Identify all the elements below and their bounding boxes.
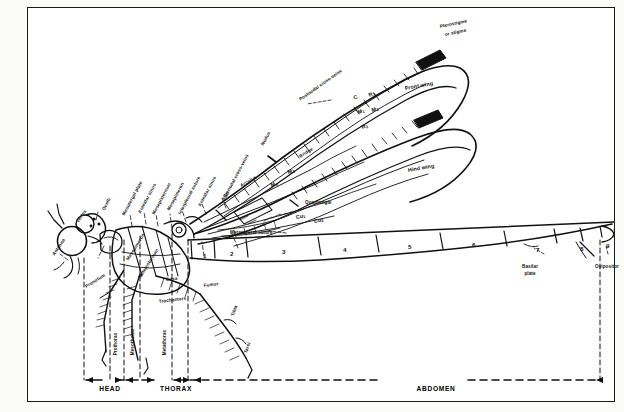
abdomen-segment-7: 7	[536, 247, 540, 253]
prothorax-label: Prothorax	[114, 333, 119, 356]
abdomen-segment-2: 2	[230, 251, 234, 257]
metathorax-label: Metathorax	[163, 330, 168, 356]
abdomen-segment-4: 4	[343, 247, 347, 253]
figure-frame: AntennaVertexOcelliPronotumMesotergal pl…	[27, 7, 615, 402]
bracket-thorax: THORAX	[158, 385, 194, 392]
wing-label-quadrangle: Quadrangle	[305, 201, 332, 206]
basilar-plate-label: Basilarplate	[522, 265, 538, 276]
ovipositor-line1: Ovipositor	[595, 265, 619, 270]
thorax-label-metapleural-suture: Metapleural suture	[230, 231, 273, 236]
abdomen-segment-5: 5	[408, 244, 412, 250]
basilar-plate-line2: plate	[522, 272, 538, 277]
illustration-canvas: AntennaVertexOcelliPronotumMesotergal pl…	[28, 8, 614, 401]
abdomen-segment-9: 9	[606, 243, 610, 249]
figure-plate: AntennaVertexOcelliPronotumMesotergal pl…	[0, 0, 624, 412]
basilar-plate-line1: Basilar	[522, 265, 538, 270]
abdomen-segment-8: 8	[580, 246, 584, 252]
mesothorax-label: Mesothorax	[131, 329, 136, 356]
subscript: 1	[303, 214, 306, 219]
ovipositor-label: Ovipositor	[595, 265, 619, 270]
subscript: 2	[321, 218, 324, 223]
bracket-head: HEAD	[97, 385, 122, 392]
bracket-abdomen: ABDOMEN	[415, 385, 458, 392]
abdomen-segment-3: 3	[282, 249, 286, 255]
abdomen-segment-1: 1	[203, 253, 207, 259]
abdomen-segment-6: 6	[472, 242, 476, 248]
